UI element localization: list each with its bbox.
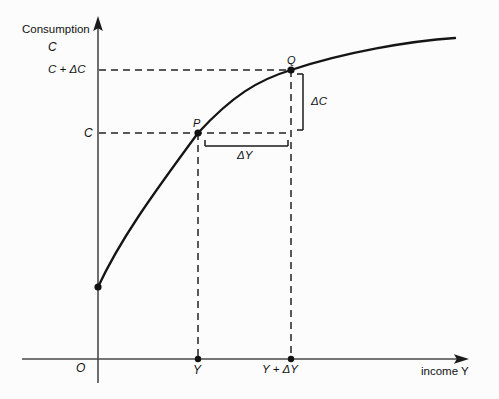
point-q-marker [287, 66, 294, 73]
curve-intercept-dot [94, 283, 101, 290]
consumption-function-figure: Consumption C C + ΔC C O Y Y + ΔY income… [0, 0, 499, 399]
y-tick-label-c: C [84, 127, 93, 139]
point-q-label: Q [287, 55, 296, 66]
x-tick-label-y-plus-delta-y: Y + ΔY [262, 364, 298, 376]
y-axis-title-line2: C [48, 41, 57, 53]
x-tick-dot-y-plus-delta-y [288, 356, 294, 362]
delta-y-bracket-shape [205, 140, 288, 146]
diagram-canvas [0, 0, 499, 399]
consumption-curve [98, 38, 455, 287]
y-tick-label-c-plus-delta-c: C + ΔC [48, 64, 85, 76]
delta-y-label: ΔY [237, 150, 252, 162]
point-p-marker [194, 129, 201, 136]
x-tick-dot-y [195, 356, 201, 362]
point-p-label: P [193, 118, 200, 129]
origin-label: O [76, 362, 85, 374]
delta-c-label: ΔC [311, 96, 327, 108]
y-axis-title-line1: Consumption [22, 24, 90, 36]
x-tick-label-y: Y [193, 364, 201, 376]
delta-c-bracket-shape [297, 74, 303, 130]
x-axis-title: income Y [421, 366, 469, 378]
